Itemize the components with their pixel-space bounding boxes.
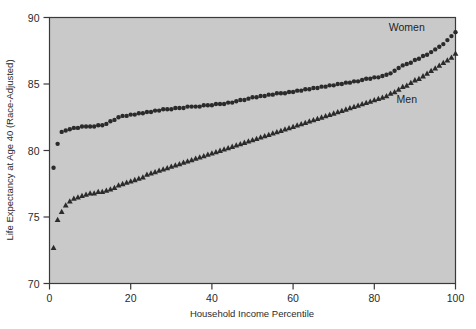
data-point-women xyxy=(287,90,291,94)
data-point-women xyxy=(96,123,100,127)
life-expectancy-scatter-chart: 7075808590 020406080100 WomenMen Househo… xyxy=(0,0,476,329)
data-point-women xyxy=(169,107,173,111)
y-tick-label: 75 xyxy=(28,211,40,223)
data-point-women xyxy=(356,79,360,83)
figure-container: 7075808590 020406080100 WomenMen Househo… xyxy=(0,0,476,329)
data-point-women xyxy=(392,69,396,73)
data-point-women xyxy=(161,107,165,111)
data-point-women xyxy=(76,126,80,130)
data-point-women xyxy=(409,61,413,65)
data-point-women xyxy=(214,102,218,106)
data-point-women xyxy=(51,166,55,170)
data-point-women xyxy=(336,82,340,86)
data-point-women xyxy=(368,76,372,80)
data-point-women xyxy=(291,90,295,94)
x-tick-label: 20 xyxy=(125,292,137,304)
data-point-women xyxy=(112,118,116,122)
y-tick-label: 90 xyxy=(28,12,40,24)
data-point-women xyxy=(92,124,96,128)
data-point-women xyxy=(417,57,421,61)
y-tick-label: 85 xyxy=(28,78,40,90)
data-point-women xyxy=(388,71,392,75)
data-point-women xyxy=(242,98,246,102)
data-point-women xyxy=(449,34,453,38)
data-point-women xyxy=(311,86,315,90)
data-point-women xyxy=(319,84,323,88)
data-point-women xyxy=(360,78,364,82)
data-point-women xyxy=(315,86,319,90)
data-point-women xyxy=(327,83,331,87)
data-point-women xyxy=(384,72,388,76)
data-point-women xyxy=(437,45,441,49)
data-point-women xyxy=(88,124,92,128)
x-tick-label: 100 xyxy=(447,292,465,304)
data-point-women xyxy=(202,103,206,107)
data-point-women xyxy=(181,106,185,110)
data-point-women xyxy=(405,62,409,66)
data-point-women xyxy=(55,142,59,146)
data-point-women xyxy=(133,112,137,116)
data-point-women xyxy=(425,53,429,57)
data-point-women xyxy=(413,58,417,62)
data-point-women xyxy=(68,127,72,131)
data-point-women xyxy=(100,123,104,127)
data-point-women xyxy=(246,96,250,100)
data-point-women xyxy=(421,54,425,58)
data-point-women xyxy=(453,30,457,34)
data-point-women xyxy=(193,104,197,108)
data-point-women xyxy=(230,100,234,104)
data-point-women xyxy=(157,108,161,112)
x-axis-title: Household Income Percentile xyxy=(190,308,314,319)
data-point-women xyxy=(72,126,76,130)
data-point-women xyxy=(124,114,128,118)
x-tick-label: 60 xyxy=(287,292,299,304)
data-point-women xyxy=(340,82,344,86)
data-point-women xyxy=(129,112,133,116)
data-point-women xyxy=(441,42,445,46)
data-point-women xyxy=(234,99,238,103)
series-label-men: Men xyxy=(397,93,418,105)
y-axis-title: Life Expectancy at Age 40 (Race-Adjusted… xyxy=(4,59,15,240)
data-point-women xyxy=(396,66,400,70)
plot-area-background xyxy=(50,18,456,284)
data-point-women xyxy=(372,75,376,79)
data-point-women xyxy=(283,91,287,95)
data-point-women xyxy=(433,47,437,51)
data-point-women xyxy=(149,110,153,114)
data-point-women xyxy=(185,104,189,108)
data-point-women xyxy=(352,79,356,83)
data-point-women xyxy=(238,98,242,102)
data-point-women xyxy=(173,106,177,110)
data-point-women xyxy=(376,75,380,79)
data-point-women xyxy=(250,95,254,99)
data-point-women xyxy=(222,102,226,106)
data-point-women xyxy=(271,92,275,96)
data-point-women xyxy=(262,94,266,98)
data-point-women xyxy=(295,88,299,92)
data-point-women xyxy=(303,87,307,91)
data-point-women xyxy=(80,124,84,128)
data-point-women xyxy=(108,119,112,123)
y-tick-label: 80 xyxy=(28,145,40,157)
y-tick-label: 70 xyxy=(28,278,40,290)
data-point-women xyxy=(323,84,327,88)
x-tick-label: 80 xyxy=(368,292,380,304)
data-point-women xyxy=(59,130,63,134)
data-point-women xyxy=(189,104,193,108)
data-point-women xyxy=(267,92,271,96)
data-point-women xyxy=(445,38,449,42)
data-point-women xyxy=(120,114,124,118)
series-label-women: Women xyxy=(389,21,425,33)
data-point-women xyxy=(218,102,222,106)
data-point-women xyxy=(364,76,368,80)
data-point-women xyxy=(348,80,352,84)
data-point-women xyxy=(165,107,169,111)
data-point-women xyxy=(64,128,68,132)
x-tick-label: 40 xyxy=(206,292,218,304)
data-point-women xyxy=(332,83,336,87)
x-tick-label: 0 xyxy=(47,292,53,304)
data-point-women xyxy=(177,106,181,110)
data-point-women xyxy=(84,124,88,128)
data-point-women xyxy=(141,111,145,115)
data-point-women xyxy=(254,95,258,99)
